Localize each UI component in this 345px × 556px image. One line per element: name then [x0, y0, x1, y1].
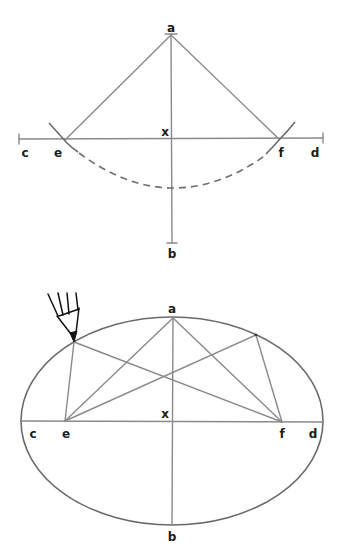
figure-ellipse-drawing: a b c d e f x — [21, 293, 323, 544]
label-a: a — [167, 21, 175, 35]
line-a-f — [173, 318, 282, 422]
line-a-e — [65, 318, 173, 421]
dashed-arc — [79, 153, 266, 188]
label-d: d — [311, 146, 320, 160]
label-e: e — [54, 146, 62, 160]
point-q — [255, 334, 258, 337]
label-b: b — [168, 247, 177, 261]
minor-axis-line — [172, 317, 173, 525]
label-c: c — [21, 146, 28, 160]
label-a: a — [168, 302, 176, 316]
line-a-e — [65, 35, 171, 140]
figure-foci-construction: a b c d e f x — [19, 21, 323, 261]
label-f: f — [279, 427, 285, 441]
label-b: b — [168, 530, 177, 544]
label-e: e — [62, 427, 70, 441]
label-f: f — [278, 146, 284, 160]
pencil-icon — [48, 293, 79, 342]
label-x: x — [161, 407, 169, 421]
label-c: c — [29, 427, 36, 441]
ellipse-construction-diagram: a b c d e f x — [0, 0, 345, 556]
line-a-f — [171, 35, 279, 139]
label-x: x — [161, 125, 169, 139]
minor-axis-line — [171, 34, 172, 243]
line-p-e — [65, 342, 74, 421]
label-d: d — [309, 427, 318, 441]
